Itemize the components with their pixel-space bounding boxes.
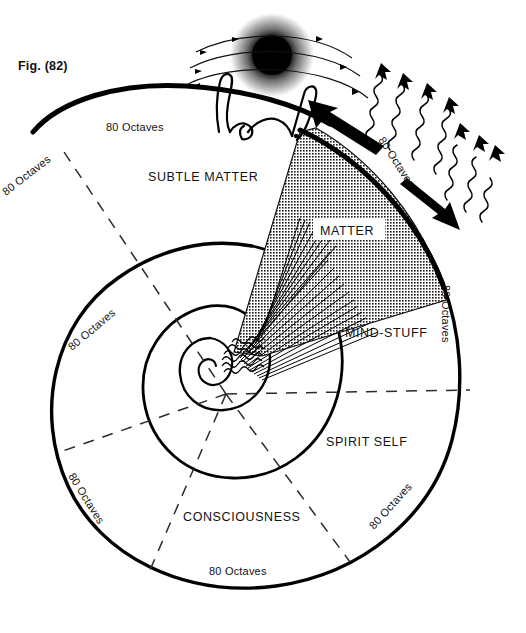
octave-label-mid-right: 80 Octaves <box>440 285 452 343</box>
figure-canvas: Fig. (82) SUBTLE MATTER MATTER MIND-STUF… <box>0 0 526 633</box>
octave-label-lower-right: 80 Octaves <box>367 480 415 531</box>
radial-east <box>226 390 470 394</box>
sun-disc <box>252 35 292 75</box>
octave-label-upper-left: 80 Octaves <box>0 152 53 197</box>
sun-glyph <box>188 13 368 98</box>
figure-caption: Fig. (82) <box>18 59 68 73</box>
octave-label-top: 80 Octaves <box>106 121 164 133</box>
radial-sw <box>150 394 226 570</box>
spiral-turn-5 <box>199 338 233 385</box>
diagram-svg: Fig. (82) SUBTLE MATTER MATTER MIND-STUF… <box>0 0 526 633</box>
region-label-mind-stuff: MIND-STUFF <box>345 326 427 340</box>
region-label-consciousness: CONSCIOUSNESS <box>183 510 301 524</box>
region-label-matter: MATTER <box>320 224 374 238</box>
octave-label-bottom: 80 Octaves <box>209 565 267 577</box>
region-label-spirit-self: SPIRIT SELF <box>326 435 407 449</box>
region-label-subtle-matter: SUBTLE MATTER <box>148 170 258 184</box>
dashed-radials <box>60 146 470 570</box>
